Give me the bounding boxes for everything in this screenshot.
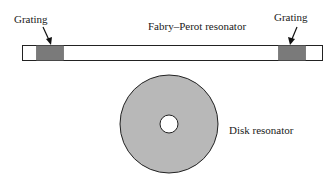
resonator-diagram: Grating Fabry–Perot resonator Grating Di… [0,0,336,184]
fabry-perot-label: Fabry–Perot resonator [148,20,246,32]
arrow-right-icon [288,27,297,45]
disk-center-hole [160,115,178,133]
grating-right-label: Grating [274,11,308,23]
disk-resonator-label: Disk resonator [229,124,294,136]
grating-right [279,46,306,61]
grating-left-label: Grating [14,13,48,25]
arrow-left-icon [43,27,52,45]
grating-left [37,46,64,61]
fabry-perot-waveguide [23,46,323,61]
